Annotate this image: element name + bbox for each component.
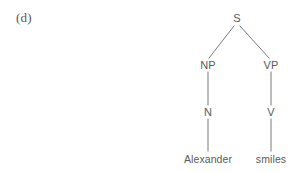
tree-edge-s-np — [209, 26, 234, 58]
tree-leaf-alexander: Alexander — [184, 153, 232, 165]
tree-node-vp: VP — [264, 59, 279, 71]
tree-node-n: N — [204, 106, 212, 118]
tree-leaf-smiles: smiles — [256, 153, 286, 165]
syntax-tree-edges — [0, 0, 305, 172]
tree-node-s: S — [233, 12, 240, 24]
figure-canvas: (d) SNPVPNVAlexandersmiles — [0, 0, 305, 172]
tree-edge-s-vp — [240, 26, 269, 58]
tree-node-np: NP — [200, 59, 215, 71]
tree-node-v: V — [267, 106, 274, 118]
